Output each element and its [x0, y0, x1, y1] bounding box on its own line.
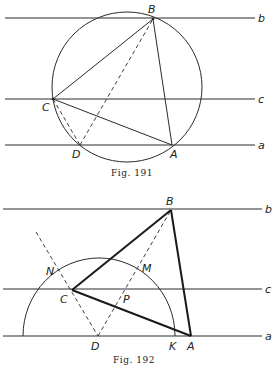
label-B: B — [148, 3, 156, 16]
point-c — [52, 98, 55, 101]
caption-fig-192: Fig. 192 — [113, 355, 155, 365]
label-P: P — [123, 293, 130, 306]
label-C: C — [42, 101, 50, 114]
label-line-b: b — [258, 12, 265, 25]
label-D: D — [72, 148, 80, 161]
caption-fig-191: Fig. 191 — [111, 168, 153, 178]
segment-ba — [153, 19, 172, 145]
segment-cb — [53, 19, 153, 99]
dashed-nd — [36, 232, 98, 336]
figure-192: B C D A N M P K b c a Fig. 192 — [3, 195, 272, 365]
figure-191: B C D A b c a Fig. 191 — [5, 3, 265, 178]
label-A: A — [186, 340, 195, 353]
point-b — [152, 18, 155, 21]
label-K: K — [169, 340, 177, 353]
dashed-db — [98, 210, 171, 336]
label-N: N — [46, 265, 54, 278]
segment-ca — [72, 290, 191, 336]
segment-ca — [53, 99, 172, 145]
label-line-b: b — [265, 203, 272, 216]
label-line-c: c — [258, 93, 264, 106]
dashed-cd — [53, 99, 80, 145]
label-M: M — [142, 262, 152, 275]
label-C: C — [60, 293, 68, 306]
label-line-a: a — [265, 330, 272, 343]
label-line-c: c — [265, 283, 271, 296]
label-line-a: a — [258, 139, 265, 152]
circumcircle — [52, 12, 202, 162]
label-A: A — [169, 148, 178, 161]
segment-ba — [171, 210, 191, 336]
label-B: B — [166, 195, 174, 208]
dashed-db — [80, 19, 153, 145]
segment-cb — [72, 210, 171, 290]
label-D: D — [91, 340, 99, 353]
geometry-figures: B C D A b c a Fig. 191 B C D A N M P K b… — [0, 0, 276, 367]
